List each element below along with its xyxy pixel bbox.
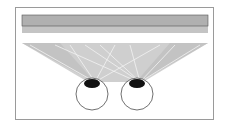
- left-eye: [76, 78, 108, 110]
- image-strip: [22, 15, 208, 26]
- left-pupil: [84, 79, 100, 88]
- right-pupil: [129, 79, 145, 88]
- light-rays: [22, 43, 208, 82]
- lenticular-diagram: [0, 0, 229, 133]
- right-eye: [121, 78, 153, 110]
